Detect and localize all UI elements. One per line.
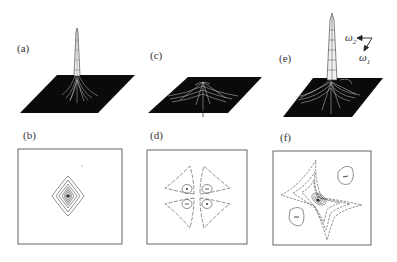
panel-label-c: (c) — [150, 50, 162, 61]
omega2-label: ω2 — [345, 32, 356, 46]
omega1-label: ω1 — [359, 52, 370, 66]
panel-label-b: (b) — [23, 130, 36, 141]
figure-canvas — [0, 0, 397, 262]
panel-a-surface — [20, 28, 135, 113]
axis-arrows — [357, 36, 372, 52]
panel-label-d: (d) — [150, 130, 163, 141]
panel-label-e: (e) — [279, 53, 291, 64]
panel-b-contour — [18, 149, 122, 244]
panel-c-surface — [148, 77, 262, 117]
panel-label-a: (a) — [17, 43, 29, 54]
panel-d-contour — [147, 150, 247, 244]
panel-label-f: (f) — [280, 132, 291, 143]
panel-f-contour — [273, 151, 371, 245]
